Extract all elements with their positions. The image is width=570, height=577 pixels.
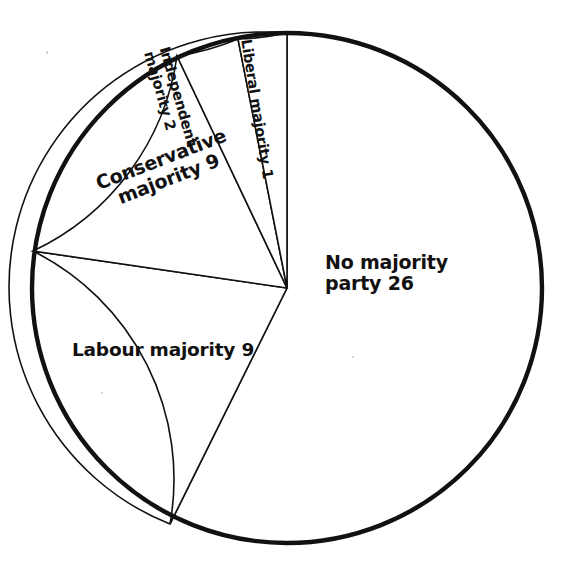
slice-label-line2: party 26 (325, 272, 414, 294)
pie-slices (9, 32, 287, 524)
slice-label-line1: Labour majority 9 (72, 339, 254, 360)
pie-chart-canvas (0, 0, 570, 577)
slice-label-line1: No majority (325, 251, 448, 273)
scan-speck (352, 356, 354, 358)
slice-label-no-majority-party: No majorityparty 26 (325, 252, 448, 295)
slice-label-labour-majority: Labour majority 9 (72, 340, 254, 361)
scan-speck (101, 392, 103, 394)
scan-speck (46, 51, 48, 54)
pie-chart-figure: No majorityparty 26 Labour majority 9 Co… (0, 0, 570, 577)
